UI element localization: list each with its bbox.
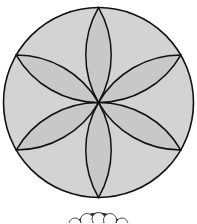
rosette-diagram: [0, 0, 197, 223]
partial-figure-bottom: [61, 213, 137, 224]
scallop-holes: [69, 213, 128, 224]
main-circle-group: [4, 8, 194, 198]
